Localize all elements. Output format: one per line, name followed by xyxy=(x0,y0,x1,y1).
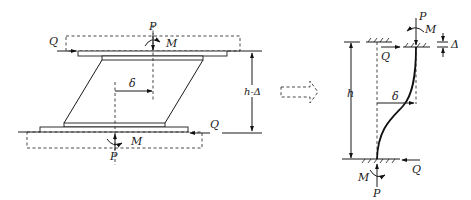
bearing-left-edge xyxy=(64,60,102,123)
delta-label: δ xyxy=(392,90,399,103)
top-outer-plate xyxy=(78,51,227,56)
height-label: h-Δ xyxy=(244,86,261,97)
bottom-support-hatch xyxy=(362,159,395,163)
top-inner-plate xyxy=(102,56,203,60)
bottom-axial-label: P xyxy=(372,187,381,200)
bearing-deformation-diagram: δ Q P M Q P M h-Δ h xyxy=(0,0,471,200)
top-moment-label: M xyxy=(424,23,437,36)
transition-arrow xyxy=(281,81,318,103)
dashed-right-arrow-icon xyxy=(281,81,318,103)
bottom-inner-plate xyxy=(64,123,165,127)
top-ref-support-hatch xyxy=(368,38,389,42)
top-moment-label: M xyxy=(165,37,178,50)
top-shear-label: Q xyxy=(49,35,58,48)
vertical-shortening-label: Δ xyxy=(450,38,459,51)
delta-label: δ xyxy=(129,77,136,90)
right-column-diagram: h Q P M Δ xyxy=(342,10,459,200)
bottom-shear-label: Q xyxy=(412,163,421,176)
bottom-shear-label: Q xyxy=(210,118,219,131)
bottom-outer-plate xyxy=(40,127,188,132)
top-axial-label: P xyxy=(148,20,157,33)
top-shear-label: Q xyxy=(381,50,390,63)
bottom-moment-label: M xyxy=(130,135,143,148)
bearing-right-edge xyxy=(165,60,203,123)
bottom-axial-label: P xyxy=(109,150,118,163)
top-axial-label: P xyxy=(418,10,427,23)
left-bearing-diagram: δ Q P M Q P M h-Δ xyxy=(18,20,264,165)
h-label: h xyxy=(347,87,354,100)
bottom-moment-label: M xyxy=(357,171,370,184)
